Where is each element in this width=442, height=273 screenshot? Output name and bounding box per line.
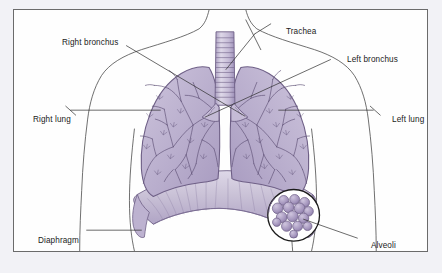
leader-left-lung-tick xyxy=(370,106,380,115)
leader-trachea-3 xyxy=(246,20,261,50)
label-alveoli: Alveoli xyxy=(371,242,396,250)
diagram-panel: Right bronchus Trachea Left bronchus Rig… xyxy=(13,9,428,252)
label-right-lung: Right lung xyxy=(33,116,71,124)
right-lung-structure xyxy=(140,67,219,197)
figure-canvas: Right bronchus Trachea Left bronchus Rig… xyxy=(0,0,442,273)
trachea-structure xyxy=(215,32,235,105)
left-lung-structure xyxy=(230,67,309,197)
alveoli-inset xyxy=(268,190,320,242)
label-trachea: Trachea xyxy=(286,28,316,36)
leader-right-lung-tick xyxy=(66,106,76,115)
label-diaphragm: Diaphragm xyxy=(38,237,79,245)
label-left-lung: Left lung xyxy=(392,116,424,124)
label-right-bronchus: Right bronchus xyxy=(62,39,118,47)
label-left-bronchus: Left bronchus xyxy=(347,56,398,64)
